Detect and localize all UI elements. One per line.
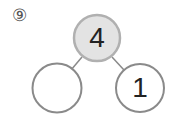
part-left-circle[interactable] [33,64,82,113]
problem-number: ⑨ [12,6,27,26]
whole-value: 4 [74,22,120,54]
part-right-value: 1 [116,72,164,104]
connector-right [112,57,124,70]
